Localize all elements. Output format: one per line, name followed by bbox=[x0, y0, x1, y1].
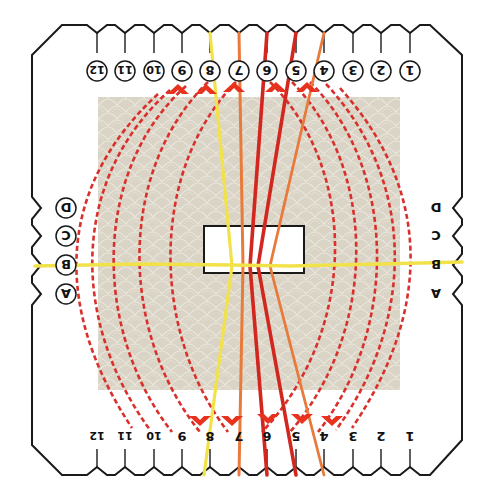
svg-text:1: 1 bbox=[405, 429, 414, 444]
bottom-slot-label-10: 10 bbox=[146, 429, 162, 442]
svg-text:C: C bbox=[61, 228, 71, 243]
svg-text:12: 12 bbox=[89, 63, 104, 76]
svg-text:4: 4 bbox=[319, 63, 328, 78]
svg-text:10: 10 bbox=[146, 429, 162, 442]
svg-text:B: B bbox=[61, 257, 71, 272]
svg-text:3: 3 bbox=[348, 63, 357, 78]
loom-diagram-canvas: 121110987654321121110987654321DCBADCBA bbox=[0, 0, 495, 498]
bottom-slot-label-3: 3 bbox=[348, 429, 357, 444]
left-slot-label-D: D bbox=[56, 198, 76, 218]
bottom-slot-label-8: 8 bbox=[205, 429, 214, 444]
svg-text:8: 8 bbox=[205, 429, 214, 444]
svg-text:2: 2 bbox=[376, 63, 385, 78]
svg-text:8: 8 bbox=[205, 63, 214, 78]
svg-text:6: 6 bbox=[262, 63, 271, 78]
svg-text:3: 3 bbox=[348, 429, 357, 444]
bottom-slot-label-5: 5 bbox=[291, 429, 300, 444]
bottom-slot-label-6: 6 bbox=[262, 429, 271, 444]
left-slot-label-C: C bbox=[56, 226, 76, 246]
top-slot-label-4: 4 bbox=[314, 61, 334, 81]
svg-text:10: 10 bbox=[146, 63, 162, 76]
left-slot-label-A: A bbox=[56, 284, 76, 304]
top-slot-label-3: 3 bbox=[343, 61, 363, 81]
bottom-slot-label-2: 2 bbox=[376, 429, 385, 444]
svg-text:C: C bbox=[431, 228, 441, 243]
svg-text:A: A bbox=[61, 286, 71, 301]
top-slot-label-2: 2 bbox=[371, 61, 391, 81]
bottom-slot-label-7: 7 bbox=[234, 429, 243, 444]
top-slot-label-7: 7 bbox=[229, 61, 249, 81]
top-slot-label-1: 1 bbox=[400, 61, 420, 81]
top-slot-label-10: 10 bbox=[144, 61, 164, 81]
right-slot-label-B: B bbox=[431, 257, 441, 272]
svg-text:5: 5 bbox=[291, 63, 300, 78]
top-slot-label-11: 11 bbox=[115, 61, 135, 81]
top-slot-label-9: 9 bbox=[172, 61, 192, 81]
bottom-slot-label-11: 11 bbox=[117, 429, 132, 442]
svg-text:9: 9 bbox=[177, 429, 186, 444]
svg-text:1: 1 bbox=[405, 63, 414, 78]
bottom-slot-label-1: 1 bbox=[405, 429, 414, 444]
svg-text:2: 2 bbox=[376, 429, 385, 444]
top-slot-label-5: 5 bbox=[286, 61, 306, 81]
svg-text:B: B bbox=[431, 257, 441, 272]
right-slot-label-A: A bbox=[431, 286, 441, 301]
svg-text:11: 11 bbox=[117, 63, 132, 76]
svg-text:7: 7 bbox=[234, 63, 243, 78]
bottom-slot-label-9: 9 bbox=[177, 429, 186, 444]
svg-text:7: 7 bbox=[234, 429, 243, 444]
svg-text:A: A bbox=[431, 286, 441, 301]
svg-text:D: D bbox=[430, 200, 441, 215]
svg-text:5: 5 bbox=[291, 429, 300, 444]
top-slot-label-12: 12 bbox=[87, 61, 107, 81]
loom-diagram: 121110987654321121110987654321DCBADCBA B… bbox=[0, 0, 495, 498]
right-slot-label-C: C bbox=[431, 228, 441, 243]
svg-text:D: D bbox=[60, 200, 71, 215]
svg-text:12: 12 bbox=[89, 429, 104, 442]
svg-text:11: 11 bbox=[117, 429, 132, 442]
right-slot-label-D: D bbox=[430, 200, 441, 215]
svg-text:6: 6 bbox=[262, 429, 271, 444]
bottom-slot-label-12: 12 bbox=[89, 429, 104, 442]
left-slot-label-B: B bbox=[56, 255, 76, 275]
bottom-slot-label-4: 4 bbox=[319, 429, 328, 444]
svg-text:4: 4 bbox=[319, 429, 328, 444]
top-slot-label-6: 6 bbox=[257, 61, 277, 81]
svg-text:9: 9 bbox=[177, 63, 186, 78]
top-slot-label-8: 8 bbox=[200, 61, 220, 81]
